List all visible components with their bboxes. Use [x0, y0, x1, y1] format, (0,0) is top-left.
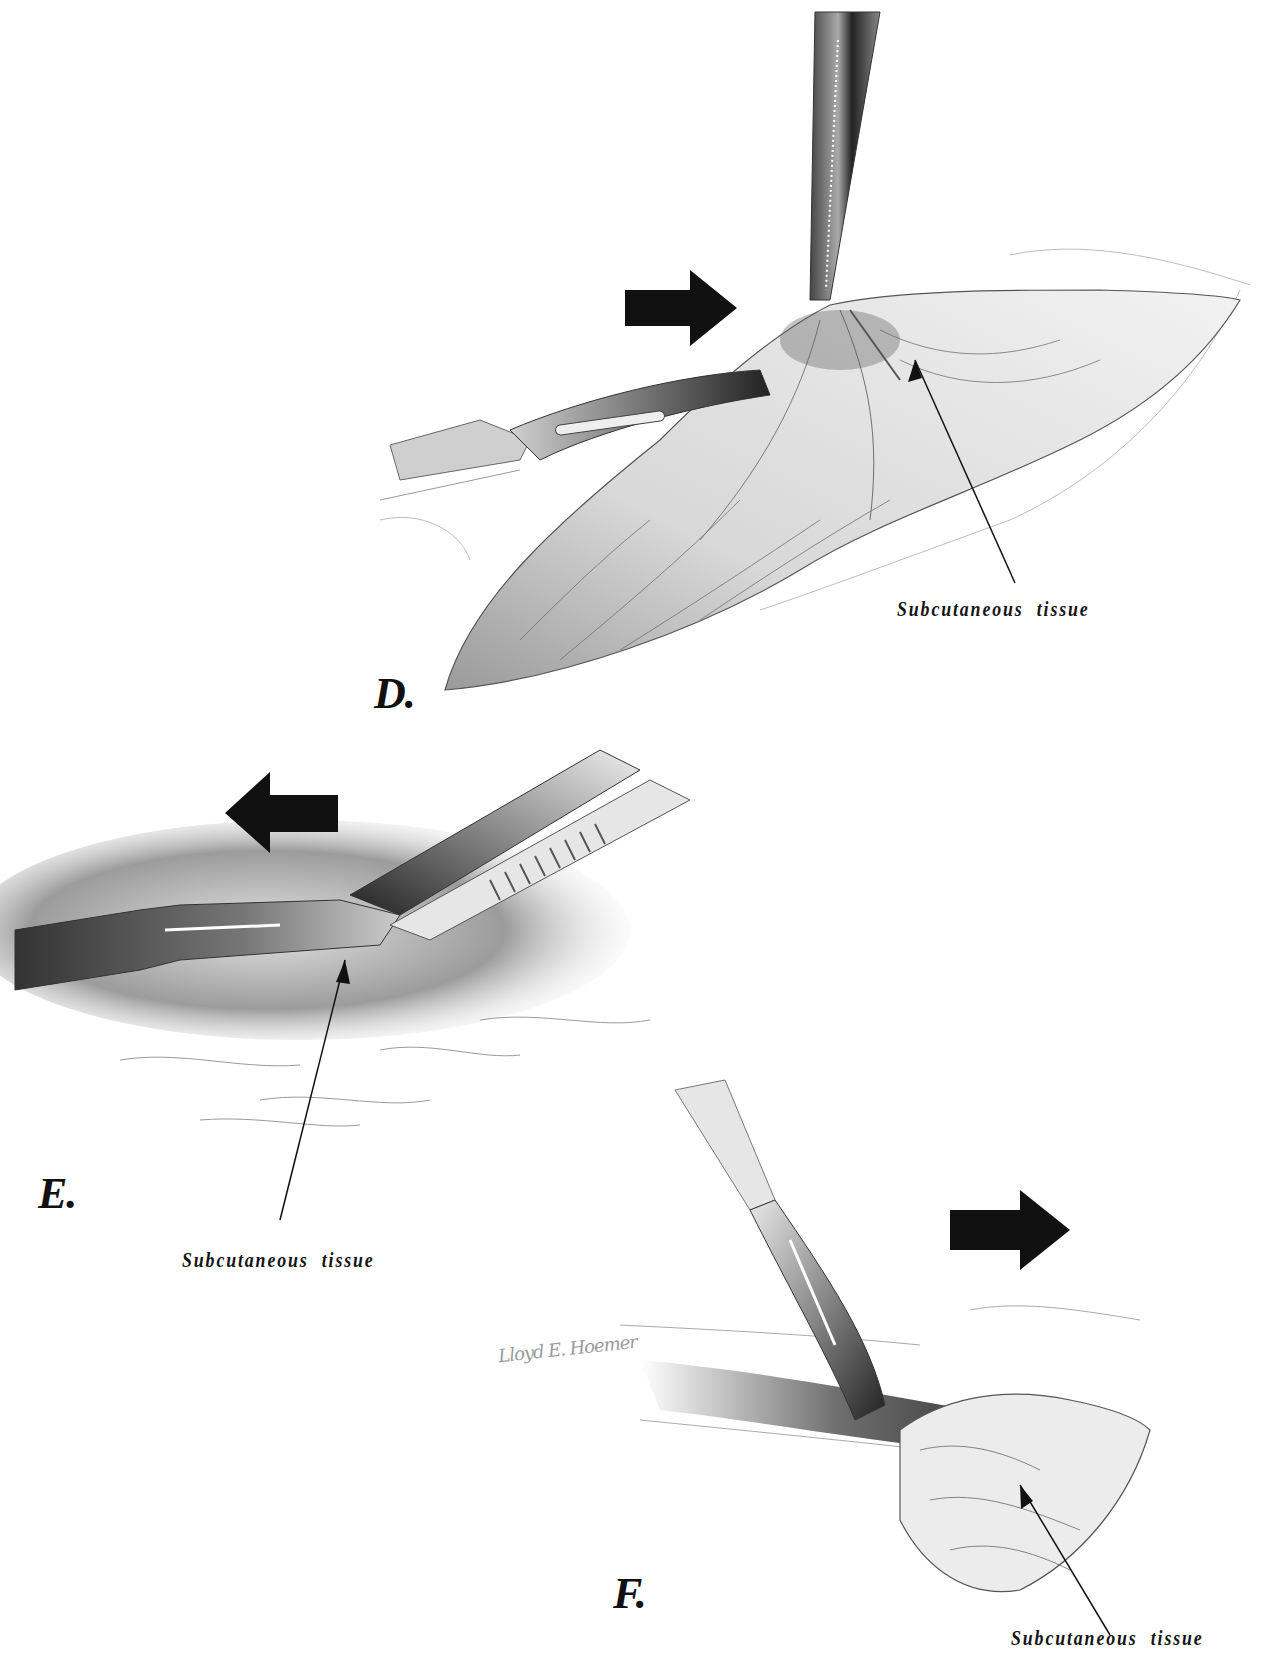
forceps	[810, 12, 880, 300]
panel-d-illustration	[0, 0, 1288, 700]
panel-letter-d: D.	[374, 668, 415, 719]
panel-letter-f: F.	[613, 1568, 646, 1619]
panel-f-illustration	[600, 1120, 1288, 1660]
tissue-shadow	[780, 310, 900, 370]
subcutaneous-tissue-label-e: Subcutaneous tissue	[182, 1248, 375, 1273]
panel-f: F. Subcutaneous tissue	[600, 1120, 1288, 1660]
subcutaneous-tissue-label-f: Subcutaneous tissue	[1011, 1626, 1204, 1651]
arrow-right-icon	[950, 1190, 1070, 1270]
panel-d: Subcutaneous tissue D.	[0, 0, 1288, 700]
subcutaneous-tissue-label-d: Subcutaneous tissue	[897, 597, 1090, 622]
arrow-right-icon	[625, 270, 737, 346]
panel-letter-e: E.	[38, 1168, 76, 1219]
